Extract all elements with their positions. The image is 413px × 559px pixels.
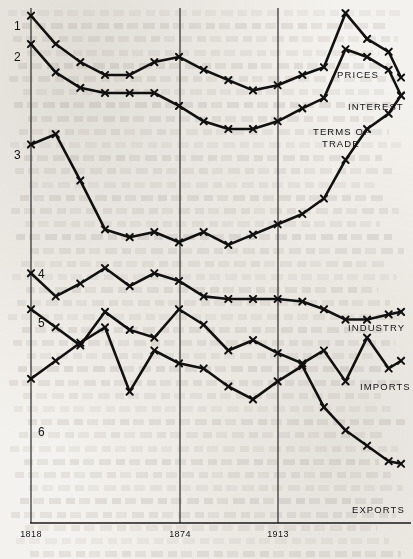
series-line <box>31 327 401 463</box>
x-tick-label-1874: 1874 <box>169 529 191 539</box>
series-index-label-6: 6 <box>38 425 45 439</box>
series-name-label-exports: EXPORTS <box>352 504 405 515</box>
x-axis-tick-labels: 181818741913 <box>20 529 289 539</box>
series-name-label-trade: TRADE <box>322 138 360 149</box>
series-name-label-terms-of: TERMS OF <box>313 126 371 137</box>
series-index-label-1: 1 <box>14 19 21 33</box>
chart-plot-area: 181818741913 123456 PRICESINTERESTTERMS … <box>0 0 413 559</box>
series-exports <box>28 324 404 467</box>
series-name-label-imports: IMPORTS <box>360 381 411 392</box>
series-name-label-interest: INTEREST <box>348 101 404 112</box>
series-line <box>31 44 401 129</box>
series-name-labels: PRICESINTERESTTERMS OFTRADEINDUSTRYIMPOR… <box>313 69 411 515</box>
series-interest <box>28 41 404 132</box>
series-index-label-4: 4 <box>38 267 45 281</box>
series-name-label-industry: INDUSTRY <box>348 322 405 333</box>
series-index-label-3: 3 <box>14 148 21 162</box>
series-line <box>31 268 401 320</box>
series-index-label-5: 5 <box>38 316 45 330</box>
series-name-label-prices: PRICES <box>337 69 379 80</box>
chart-figure: 181818741913 123456 PRICESINTERESTTERMS … <box>0 0 413 559</box>
series-line <box>31 96 401 245</box>
series-index-label-2: 2 <box>14 50 21 64</box>
series-terms-of-trade <box>28 92 404 248</box>
series-industry <box>28 265 404 323</box>
x-tick-label-1913: 1913 <box>267 529 289 539</box>
x-tick-label-1818: 1818 <box>20 529 42 539</box>
